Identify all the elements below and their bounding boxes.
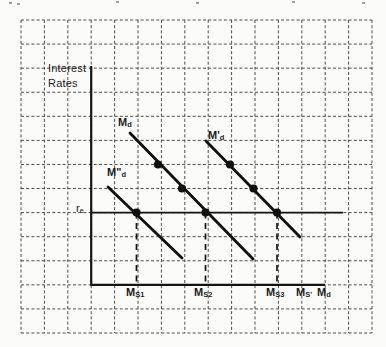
curve-label-md: Md [118, 116, 132, 129]
scanned-economics-figure: Interest Rates re Md M'd M"d MS1 MS2 MS3… [0, 0, 386, 347]
curve-label-md-sub: d [127, 120, 132, 129]
equilibrium-dot [178, 184, 186, 192]
equilibrium-dot [249, 184, 257, 192]
curve-label-md-double-prime: M"d [107, 166, 126, 179]
curve-label-md-prime: M'd [208, 129, 224, 142]
equilibrium-rate-sub: e [80, 206, 84, 215]
x-axis-label-ms2: MS2 [194, 286, 212, 299]
x-axis-label-md-base: M [317, 286, 326, 298]
equilibrium-dot [273, 209, 281, 217]
scan-artifact [17, 3, 20, 5]
x-axis-label-ms3-sub: S3 [275, 290, 284, 299]
x-axis-label-md-sub: d [326, 290, 331, 299]
equilibrium-dot [132, 209, 140, 217]
x-axis-label-ms2-sub: S2 [203, 290, 212, 299]
scan-artifact [9, 2, 12, 4]
x-axis-label-ms1-sub: S1 [135, 290, 144, 299]
x-axis-label-ms3: MS3 [266, 286, 284, 299]
curve-label-md-base: M [118, 116, 127, 128]
equilibrium-dot [201, 209, 209, 217]
equilibrium-dot [226, 160, 234, 168]
x-axis-label-ms2-base: M [194, 286, 203, 298]
y-axis-title-line1: Interest [48, 62, 86, 75]
curve-md [130, 133, 253, 259]
scan-artifact [362, 2, 365, 4]
curve-label-md-prime-base: M' [208, 129, 220, 141]
curve-label-md-prime-sub: d [220, 133, 225, 142]
y-axis-title-line2: Rates [48, 77, 78, 90]
x-axis-label-ms-prime-sub: S' [305, 290, 312, 299]
curve-label-md-double-prime-sub: d [121, 170, 126, 179]
x-axis-label-ms1-base: M [126, 286, 135, 298]
x-axis-label-ms3-base: M [266, 286, 275, 298]
equilibrium-rate-label: re [76, 202, 84, 215]
x-axis-label-md: Md [317, 286, 331, 299]
x-axis-label-ms1: MS1 [126, 286, 144, 299]
equilibrium-dot [154, 160, 162, 168]
scan-artifact [196, 2, 199, 4]
x-axis-label-ms-prime-base: M [296, 286, 305, 298]
scan-artifact [292, 1, 295, 3]
scan-artifact [116, 1, 119, 3]
curve-md-double-prime [108, 187, 182, 258]
x-axis-label-ms-prime: MS' [296, 286, 312, 299]
curve-label-md-double-prime-base: M" [107, 166, 121, 178]
